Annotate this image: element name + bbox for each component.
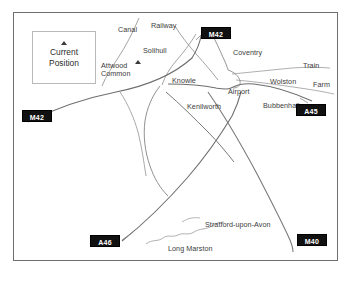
current-position-label-line1: Current xyxy=(33,47,95,57)
western-loop-line xyxy=(144,86,168,196)
triangle-marker-icon xyxy=(135,60,141,64)
label-knowle: Knowle xyxy=(172,77,196,85)
label-farm: Farm xyxy=(313,81,330,89)
label-train: Train xyxy=(303,62,319,70)
knowle-west-curve-line xyxy=(120,92,146,176)
map-image: Current Position Canal Railway Solihull … xyxy=(0,0,352,282)
label-solihull: Solihull xyxy=(143,47,167,55)
label-attwood-common: Attwood Common xyxy=(101,62,135,79)
label-airport: Airport xyxy=(228,88,250,96)
badge-a46: A46 xyxy=(90,235,120,247)
label-bubbenhall: Bubbenhall xyxy=(263,102,299,110)
label-kenilworth: Kenilworth xyxy=(187,103,221,111)
label-wolston: Wolston xyxy=(270,78,296,86)
label-canal: Canal xyxy=(118,26,137,34)
coventry-approach-line xyxy=(214,38,228,70)
label-railway: Railway xyxy=(151,22,177,30)
badge-a45: A45 xyxy=(296,104,326,116)
label-coventry: Coventry xyxy=(233,49,262,57)
label-stratford-upon-avon: Stratford-upon-Avon xyxy=(205,221,271,229)
current-position-label-line2: Position xyxy=(33,58,95,68)
label-long-marston: Long Marston xyxy=(168,245,213,253)
badge-m42-left: M42 xyxy=(22,110,52,122)
current-position-box: Current Position xyxy=(32,31,96,84)
triangle-marker-icon xyxy=(61,41,67,45)
badge-m42-top: M42 xyxy=(201,27,231,39)
a46-leader-line xyxy=(122,233,132,240)
badge-m40: M40 xyxy=(297,234,327,246)
stratford-feature-line xyxy=(182,218,200,222)
